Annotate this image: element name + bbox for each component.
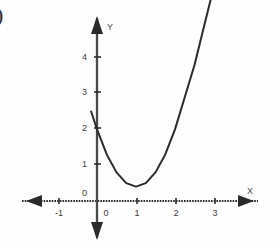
x-axis-left-arrowhead: [26, 195, 42, 207]
x-tick-label-1: 1: [134, 208, 139, 218]
x-axis-right-arrowhead: [238, 195, 254, 207]
y-axis-name-label: Y: [107, 22, 113, 32]
x-axis-name-label: X: [247, 186, 253, 196]
x-tick-label-3: 3: [212, 208, 217, 218]
parabola-graph-svg: ) -1 0 1 2 3: [0, 0, 280, 246]
y-tick-label-3: 3: [82, 87, 87, 97]
x-tick-label-2: 2: [173, 208, 178, 218]
x-tick-label--1: -1: [55, 208, 63, 218]
y-tick-label-1: 1: [82, 159, 87, 169]
x-axis: [22, 195, 258, 207]
figure-canvas: ) -1 0 1 2 3: [0, 0, 280, 246]
y-axis-up-arrowhead: [91, 16, 103, 34]
y-tick-label-2: 2: [82, 123, 87, 133]
y-tick-label-4: 4: [82, 52, 87, 62]
y-axis-down-arrowhead: [91, 222, 103, 240]
y-tick-label-0: 0: [82, 188, 87, 198]
x-tick-label-0: 0: [103, 208, 108, 218]
corner-mark-text: ): [0, 2, 3, 27]
